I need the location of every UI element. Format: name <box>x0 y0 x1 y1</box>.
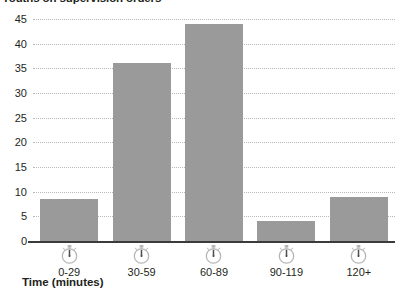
y-axis-tick-label: 25 <box>15 112 27 123</box>
x-axis-tick-label: 30-59 <box>105 266 177 278</box>
x-axis-tick: 90-119 <box>250 243 322 278</box>
y-axis-tick-label: 35 <box>15 63 27 74</box>
stopwatch-icon <box>348 243 369 265</box>
x-axis-tick: 60-89 <box>178 243 250 278</box>
stopwatch-icon <box>203 243 224 265</box>
y-axis-tick-label: 5 <box>21 211 27 222</box>
y-axis-tick-label: 10 <box>15 186 27 197</box>
bar-chart: Youths on supervision orders 05101520253… <box>0 0 409 295</box>
y-axis-tick-label: 20 <box>15 137 27 148</box>
bar[interactable] <box>185 24 243 241</box>
y-axis-tick-label: 15 <box>15 162 27 173</box>
y-axis-tick-label: 0 <box>21 236 27 247</box>
x-axis-tick-label: 120+ <box>323 266 395 278</box>
y-axis-tick-label: 45 <box>15 14 27 25</box>
x-axis-tick: 30-59 <box>105 243 177 278</box>
x-axis-tick: 0-29 <box>33 243 105 278</box>
stopwatch-icon <box>131 243 152 265</box>
x-axis-tick-label: 90-119 <box>250 266 322 278</box>
bar-series <box>33 19 395 241</box>
bar[interactable] <box>40 199 98 241</box>
stopwatch-icon <box>276 243 297 265</box>
y-axis-tick-label: 30 <box>15 88 27 99</box>
bar[interactable] <box>257 221 315 241</box>
x-axis-title: Time (minutes) <box>22 276 104 288</box>
stopwatch-icon <box>59 243 80 265</box>
x-axis-tick-label: 60-89 <box>178 266 250 278</box>
y-axis-tick-label: 40 <box>15 38 27 49</box>
bar[interactable] <box>113 63 171 241</box>
y-axis-tick-labels: 051015202530354045 <box>0 19 27 241</box>
chart-title: Youths on supervision orders <box>2 0 161 4</box>
plot-area <box>33 19 395 241</box>
bar[interactable] <box>330 197 388 241</box>
x-axis-tick: 120+ <box>323 243 395 278</box>
